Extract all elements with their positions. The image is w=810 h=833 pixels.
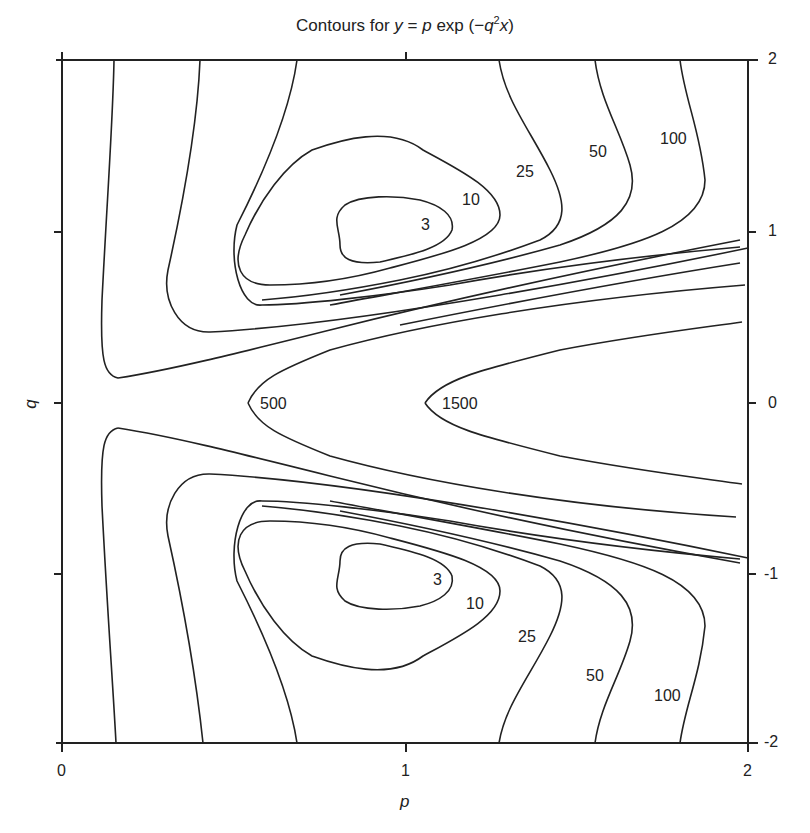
x-tick-1: 1 [401, 762, 410, 780]
y-axis-label: q [21, 399, 41, 408]
contour-plot [0, 0, 810, 833]
contour-label-10-upper: 10 [462, 191, 480, 209]
contour-lines [102, 60, 748, 743]
contour-label-25-upper: 25 [516, 163, 534, 181]
x-axis-label: p [400, 792, 409, 812]
contour-label-100-upper: 100 [660, 130, 687, 148]
contour-label-50-upper: 50 [589, 143, 607, 161]
x-tick-2: 2 [743, 762, 752, 780]
plot-frame [62, 60, 748, 743]
y-tick-1: 1 [768, 222, 777, 240]
contour-label-50-lower: 50 [586, 667, 604, 685]
contour-label-3-upper: 3 [421, 216, 430, 234]
contour-label-3-lower: 3 [433, 571, 442, 589]
contour-label-500: 500 [260, 395, 287, 413]
x-tick-0: 0 [57, 762, 66, 780]
contour-label-25-lower: 25 [518, 628, 536, 646]
contour-label-10-lower: 10 [466, 595, 484, 613]
y-tick-neg2: -2 [764, 733, 778, 751]
contour-label-1500: 1500 [442, 395, 478, 413]
contour-label-100-lower: 100 [654, 687, 681, 705]
y-tick-neg1: -1 [764, 565, 778, 583]
y-tick-2: 2 [768, 50, 777, 68]
y-tick-0: 0 [768, 394, 777, 412]
